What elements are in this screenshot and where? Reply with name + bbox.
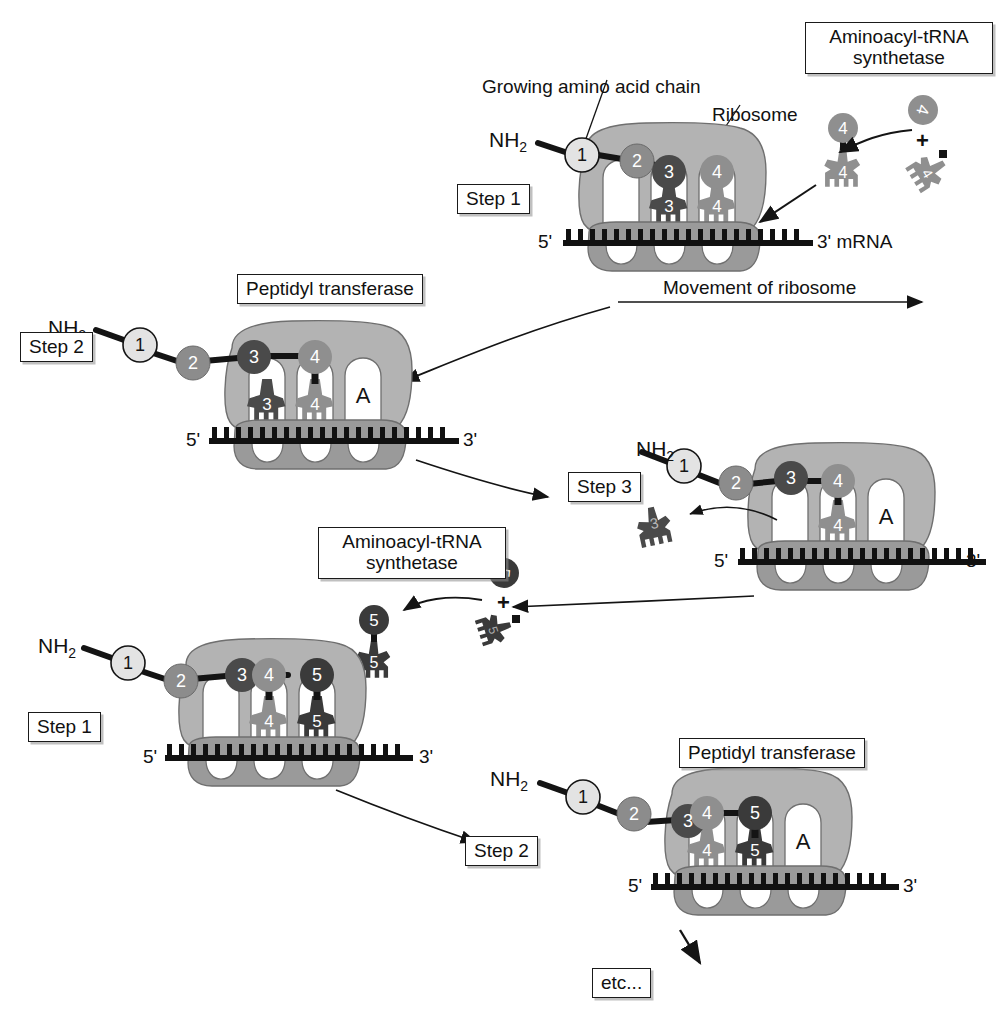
- free-amino-acid-4: 4: [908, 95, 938, 125]
- step-label-2-lower[interactable]: Step 2: [465, 836, 538, 866]
- aa-label-3: 3: [664, 162, 674, 182]
- callout-peptidyl-transferase-upper[interactable]: Peptidyl transferase: [237, 274, 423, 304]
- plus-sign-lower: +: [497, 590, 510, 616]
- nh2-subscript: 2: [519, 139, 527, 155]
- trna-label-4: 4: [264, 712, 273, 731]
- aa-label-1: 1: [135, 335, 145, 355]
- aa-label-4: 4: [833, 471, 843, 491]
- label-nh2-panel5: NH2: [490, 767, 528, 794]
- step-label-3[interactable]: Step 3: [568, 472, 641, 502]
- label-3prime-panel5: 3': [903, 875, 917, 897]
- arrow-step3-to-synthetase: [513, 596, 754, 607]
- trna-label-4: 4: [702, 841, 711, 860]
- step-label-1-top[interactable]: Step 1: [457, 184, 530, 214]
- trna-label-4: 4: [833, 516, 842, 535]
- aminoacyl-line-1: Aminoacyl-tRNA: [814, 26, 984, 47]
- arrow-step2-to-step3: [416, 460, 548, 497]
- aa-label-3: 3: [237, 665, 247, 685]
- aa-label-4: 4: [702, 803, 712, 823]
- aa-label-2: 2: [188, 353, 198, 373]
- label-5prime-panel3: 5': [714, 550, 728, 572]
- label-5prime-panel2: 5': [186, 429, 200, 451]
- a-site-label: A: [796, 829, 811, 854]
- svg-text:5: 5: [369, 611, 378, 630]
- callout-peptidyl-transferase-lower[interactable]: Peptidyl transferase: [679, 738, 865, 768]
- label-ribosome: Ribosome: [712, 104, 798, 126]
- label-nh2-panel3: NH2: [636, 437, 674, 464]
- label-5prime-panel4: 5': [143, 746, 157, 768]
- label-nh2-panel4: NH2: [38, 634, 76, 661]
- aa-label-3: 3: [786, 468, 796, 488]
- label-3prime-panel4: 3': [419, 746, 433, 768]
- label-3prime-panel2: 3': [463, 429, 477, 451]
- a-site-label: A: [879, 504, 894, 529]
- nh2-subscript: 2: [666, 448, 674, 464]
- a-site-label: A: [356, 383, 371, 408]
- aa-label-1: 1: [577, 145, 587, 165]
- trna-label-3: 3: [664, 197, 673, 216]
- aa-label-2: 2: [629, 804, 639, 824]
- arrow-charge-trna-5: [404, 598, 482, 610]
- etc-box[interactable]: etc...: [592, 968, 651, 998]
- free-trna-4-tip: [939, 150, 947, 158]
- plus-sign-top: +: [916, 128, 929, 154]
- charged-trna-4-label: 4: [839, 164, 848, 181]
- panel-step3: 4 A: [513, 443, 986, 607]
- label-movement-of-ribosome: Movement of ribosome: [663, 277, 856, 299]
- aminoacyl-line-2: synthetase: [327, 552, 497, 573]
- panel-step2-upper: 3 4 A: [96, 321, 548, 497]
- arrow-to-etc: [680, 930, 700, 963]
- callout-aminoacyl-synthetase-top[interactable]: Aminoacyl-tRNA synthetase: [805, 22, 993, 74]
- arrow-step1-to-step2: [404, 307, 610, 381]
- aminoacyl-line-2: synthetase: [814, 47, 984, 68]
- trna-label-5: 5: [750, 841, 759, 860]
- label-growing-amino-acid-chain: Growing amino acid chain: [482, 76, 701, 98]
- label-3prime-panel3: 3': [966, 550, 980, 572]
- step-label-2-upper[interactable]: Step 2: [20, 332, 93, 362]
- step-label-1-lower[interactable]: Step 1: [28, 712, 101, 742]
- aa-label-3: 3: [249, 347, 259, 367]
- released-trna-3: 3: [633, 504, 674, 548]
- aa-label-5: 5: [312, 665, 322, 685]
- nh2-subscript: 2: [68, 645, 76, 661]
- trna-label-4: 4: [310, 395, 319, 414]
- trna-label-3: 3: [262, 395, 271, 414]
- aa-label-4: 4: [712, 162, 722, 182]
- trna-label-5: 5: [312, 712, 321, 731]
- aa-label-1: 1: [123, 653, 133, 673]
- diagram-canvas: 3 4: [0, 0, 998, 1017]
- label-5prime-panel5: 5': [628, 875, 642, 897]
- aa-label-1: 1: [578, 787, 588, 807]
- svg-text:4: 4: [838, 119, 847, 138]
- arrow-step1-to-step2-lower: [336, 790, 476, 842]
- label-nh2-panel1: NH2: [489, 128, 527, 155]
- nh2-subscript: 2: [520, 778, 528, 794]
- label-5prime-panel1: 5': [538, 231, 552, 253]
- callout-aminoacyl-synthetase-lower[interactable]: Aminoacyl-tRNA synthetase: [318, 527, 506, 579]
- aa-label-2: 2: [731, 473, 741, 493]
- aa-label-2: 2: [632, 151, 642, 171]
- arrow-trna-to-a-site: [760, 185, 816, 222]
- aa-label-2: 2: [176, 671, 186, 691]
- charged-trna-5-label: 5: [370, 654, 379, 671]
- aa-label-1: 1: [679, 456, 689, 476]
- aa-label-5: 5: [750, 803, 760, 823]
- panel-step2-lower: 4 5 A: [540, 768, 899, 963]
- trna-label-4: 4: [712, 197, 721, 216]
- free-trna-5-tip: [512, 615, 520, 623]
- aminoacyl-line-1: Aminoacyl-tRNA: [327, 531, 497, 552]
- aa-label-4: 4: [310, 347, 320, 367]
- panel-step1-lower: 4 5: [84, 639, 476, 842]
- aa-label-3: 3: [683, 811, 693, 831]
- aa-label-4: 4: [264, 665, 274, 685]
- label-3prime-mrna-panel1: 3' mRNA: [817, 231, 892, 253]
